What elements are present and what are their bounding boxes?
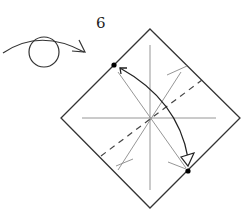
diagram-canvas (0, 0, 249, 212)
diagonal-crease-b (118, 72, 181, 170)
step-number: 6 (96, 16, 106, 31)
tick-bottom-right (168, 162, 186, 169)
reference-dot-bottom-right (185, 168, 190, 173)
crease-lines (82, 45, 216, 190)
fold-arrow-curve (120, 68, 188, 158)
turn-over-icon (3, 37, 85, 67)
reference-dot-top-left (111, 62, 116, 67)
origami-diagram: 6 (0, 0, 249, 212)
fold-arrow (120, 68, 194, 166)
tick-top-right (167, 66, 187, 75)
